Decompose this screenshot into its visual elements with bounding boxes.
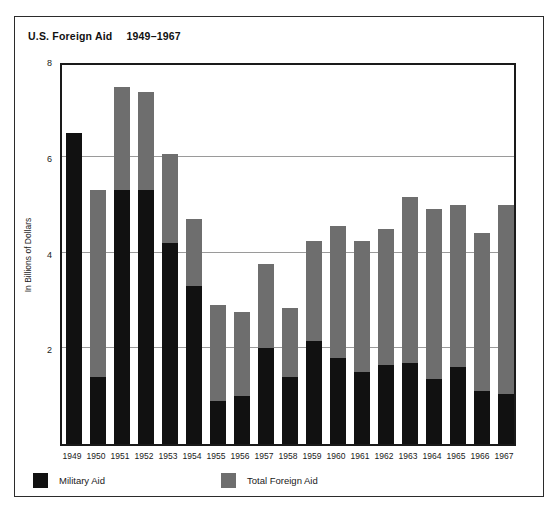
- chart-figure-frame: U.S. Foreign Aid1949–1967 In Billions of…: [14, 16, 544, 497]
- x-axis-tick-labels: 1949195019511952195319541955195619571958…: [60, 451, 516, 465]
- bar-group-1954[interactable]: [186, 61, 203, 444]
- y-axis-title: In Billions of Dollars: [21, 63, 35, 446]
- gray-square-icon: [221, 473, 236, 488]
- x-tick-label-1956: 1956: [228, 451, 252, 461]
- bar-military-aid-1959[interactable]: [306, 341, 323, 444]
- x-tick-label-1964: 1964: [420, 451, 444, 461]
- bar-group-1951[interactable]: [114, 61, 131, 444]
- chart-title-range: 1949–1967: [126, 30, 180, 42]
- legend-item-total-foreign-aid: Total Foreign Aid: [221, 473, 318, 488]
- bar-group-1955[interactable]: [210, 61, 227, 444]
- bar-group-1964[interactable]: [426, 61, 443, 444]
- y-tick-label-6: 6: [47, 154, 52, 164]
- x-tick-label-1953: 1953: [156, 451, 180, 461]
- bar-group-1953[interactable]: [162, 61, 179, 444]
- bar-group-1962[interactable]: [378, 61, 395, 444]
- bar-military-aid-1963[interactable]: [402, 363, 419, 444]
- bar-military-aid-1961[interactable]: [354, 372, 371, 444]
- legend-label-total-foreign-aid: Total Foreign Aid: [247, 475, 318, 486]
- bar-group-1957[interactable]: [258, 61, 275, 444]
- x-tick-label-1962: 1962: [372, 451, 396, 461]
- chart-title-text: U.S. Foreign Aid: [28, 30, 112, 42]
- bar-group-1961[interactable]: [354, 61, 371, 444]
- bar-military-aid-1958[interactable]: [282, 377, 299, 444]
- bar-military-aid-1953[interactable]: [162, 243, 179, 444]
- x-tick-label-1958: 1958: [276, 451, 300, 461]
- bars-layer: [62, 65, 514, 444]
- bar-group-1966[interactable]: [474, 61, 491, 444]
- bar-group-1960[interactable]: [330, 61, 347, 444]
- x-tick-label-1966: 1966: [468, 451, 492, 461]
- black-square-icon: [33, 473, 48, 488]
- bar-military-aid-1956[interactable]: [234, 396, 251, 444]
- x-tick-label-1950: 1950: [84, 451, 108, 461]
- bar-military-aid-1964[interactable]: [426, 379, 443, 444]
- plot-area: [60, 63, 516, 446]
- x-tick-label-1967: 1967: [492, 451, 516, 461]
- x-tick-label-1955: 1955: [204, 451, 228, 461]
- x-tick-label-1963: 1963: [396, 451, 420, 461]
- bar-military-aid-1966[interactable]: [474, 391, 491, 444]
- legend-item-military-aid: Military Aid: [33, 473, 105, 488]
- bar-group-1950[interactable]: [90, 61, 107, 444]
- bar-military-aid-1967[interactable]: [498, 394, 515, 444]
- bar-group-1963[interactable]: [402, 61, 419, 444]
- bar-military-aid-1965[interactable]: [450, 367, 467, 444]
- chart-legend: Military Aid Total Foreign Aid: [33, 473, 513, 495]
- bar-group-1952[interactable]: [138, 61, 155, 444]
- bar-military-aid-1951[interactable]: [114, 190, 131, 444]
- x-tick-label-1957: 1957: [252, 451, 276, 461]
- x-tick-label-1965: 1965: [444, 451, 468, 461]
- y-tick-label-4: 4: [47, 250, 52, 260]
- bar-group-1956[interactable]: [234, 61, 251, 444]
- bar-military-aid-1957[interactable]: [258, 348, 275, 444]
- y-tick-label-2: 2: [47, 345, 52, 355]
- bar-military-aid-1949[interactable]: [66, 133, 83, 444]
- x-tick-label-1959: 1959: [300, 451, 324, 461]
- x-tick-label-1951: 1951: [108, 451, 132, 461]
- bar-military-aid-1954[interactable]: [186, 286, 203, 444]
- x-tick-label-1961: 1961: [348, 451, 372, 461]
- bar-military-aid-1962[interactable]: [378, 365, 395, 444]
- bar-group-1959[interactable]: [306, 61, 323, 444]
- page-title: U.S. Foreign Aid1949–1967: [28, 30, 181, 42]
- bar-group-1949[interactable]: [66, 61, 83, 444]
- bar-military-aid-1955[interactable]: [210, 401, 227, 444]
- bar-group-1967[interactable]: [498, 61, 515, 444]
- bar-group-1958[interactable]: [282, 61, 299, 444]
- y-tick-label-8: 8: [47, 58, 52, 68]
- x-tick-label-1949: 1949: [60, 451, 84, 461]
- bar-group-1965[interactable]: [450, 61, 467, 444]
- bar-military-aid-1950[interactable]: [90, 377, 107, 444]
- x-tick-label-1954: 1954: [180, 451, 204, 461]
- x-tick-label-1960: 1960: [324, 451, 348, 461]
- bar-military-aid-1952[interactable]: [138, 190, 155, 444]
- bar-military-aid-1960[interactable]: [330, 358, 347, 444]
- x-tick-label-1952: 1952: [132, 451, 156, 461]
- legend-label-military-aid: Military Aid: [59, 475, 105, 486]
